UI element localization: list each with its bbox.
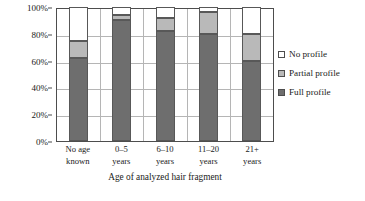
x-tick-label: No ageknown xyxy=(56,144,100,167)
y-tick-mark xyxy=(48,88,52,89)
stacked-bar[interactable] xyxy=(199,9,218,141)
x-tick-label: 21+years xyxy=(230,144,274,167)
x-tick-label: 6–10years xyxy=(143,144,187,167)
bar-segment[interactable] xyxy=(69,7,88,41)
y-tick-mark xyxy=(48,8,52,9)
stacked-bar[interactable] xyxy=(112,9,131,141)
bar-group xyxy=(57,9,273,141)
x-axis-tick-labels: No ageknown0–5years6–10years11–20years21… xyxy=(56,144,274,167)
bar-segment[interactable] xyxy=(112,7,131,15)
stacked-bar-chart-figure: Frequency 0%20%40%60%80%100% No ageknown… xyxy=(0,0,365,201)
bar-slot xyxy=(143,9,186,141)
bar-segment[interactable] xyxy=(156,31,175,141)
y-tick-label: 80% xyxy=(32,30,49,39)
bar-segment[interactable] xyxy=(156,7,175,18)
y-tick-mark xyxy=(48,61,52,62)
y-tick-mark xyxy=(48,115,52,116)
x-tick-label: 0–5years xyxy=(100,144,144,167)
y-tick-mark xyxy=(48,142,52,143)
y-tick-label: 0% xyxy=(36,138,48,147)
y-axis-tick-labels: 0%20%40%60%80%100% xyxy=(16,8,52,142)
chart-legend: No profilePartial profileFull profile xyxy=(278,45,364,102)
legend-swatch-icon xyxy=(278,89,285,96)
bar-segment[interactable] xyxy=(199,7,218,12)
bar-slot xyxy=(187,9,230,141)
bar-segment[interactable] xyxy=(242,61,261,141)
legend-item[interactable]: No profile xyxy=(278,45,364,64)
legend-item[interactable]: Full profile xyxy=(278,83,364,102)
bar-segment[interactable] xyxy=(112,20,131,141)
bar-slot xyxy=(100,9,143,141)
bar-segment[interactable] xyxy=(242,7,261,34)
bar-segment[interactable] xyxy=(199,34,218,141)
plot-area xyxy=(56,8,274,142)
bar-slot xyxy=(230,9,273,141)
bar-segment[interactable] xyxy=(112,15,131,20)
y-tick-label: 60% xyxy=(32,57,49,66)
bar-slot xyxy=(57,9,100,141)
bar-segment[interactable] xyxy=(199,12,218,33)
stacked-bar[interactable] xyxy=(242,9,261,141)
x-axis-title: Age of analyzed hair fragment xyxy=(30,172,300,182)
y-tick-mark xyxy=(48,34,52,35)
legend-swatch-icon xyxy=(278,70,285,77)
y-tick-label: 20% xyxy=(32,111,49,120)
legend-label: Partial profile xyxy=(289,69,340,78)
x-tick-label: 11–20years xyxy=(187,144,231,167)
bar-segment[interactable] xyxy=(69,58,88,141)
stacked-bar[interactable] xyxy=(156,9,175,141)
legend-item[interactable]: Partial profile xyxy=(278,64,364,83)
bar-segment[interactable] xyxy=(242,34,261,61)
legend-label: No profile xyxy=(289,50,327,59)
bar-segment[interactable] xyxy=(69,41,88,58)
legend-swatch-icon xyxy=(278,51,285,58)
legend-label: Full profile xyxy=(289,88,331,97)
y-tick-label: 100% xyxy=(27,4,48,13)
bar-segment[interactable] xyxy=(156,18,175,31)
stacked-bar[interactable] xyxy=(69,9,88,141)
y-tick-label: 40% xyxy=(32,84,49,93)
